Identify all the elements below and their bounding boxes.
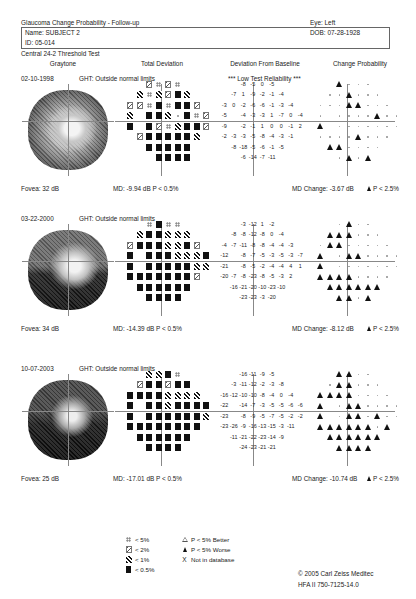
db-cell [286, 380, 296, 391]
db-cell [229, 219, 239, 230]
filled-triangle-icon [365, 445, 371, 451]
baseline-deviation-grid: -3-121-2-8-8-12-80-4-4-7-11-8-8-4-4-3-12… [210, 219, 305, 303]
dot-icon [377, 255, 379, 257]
td-cell [135, 272, 145, 283]
db-cell: -10 [277, 282, 287, 293]
solid-square-icon [184, 242, 190, 249]
cp-cell [354, 79, 364, 90]
td-cell [183, 401, 193, 412]
td-cell [126, 240, 136, 251]
td-cell [192, 380, 202, 391]
cp-cell [373, 111, 383, 122]
db-cell: -3 [229, 380, 239, 391]
cp-cell [344, 293, 354, 304]
cp-cell [344, 422, 354, 433]
hatch-dark-icon [194, 252, 200, 259]
solid-square-icon [165, 133, 171, 140]
solid-square-icon [146, 392, 152, 399]
dot-icon [339, 126, 341, 128]
db-cell: -9 [248, 411, 258, 422]
filled-triangle-icon [317, 424, 323, 430]
db-cell [296, 432, 306, 443]
db-cell [210, 121, 220, 132]
db-cell [210, 142, 220, 153]
cp-cell [316, 422, 326, 433]
td-cell [116, 369, 126, 380]
db-cell: -3 [267, 380, 277, 391]
cp-cell [316, 411, 326, 422]
td-cell [164, 293, 174, 304]
db-cell [210, 251, 220, 262]
db-cell: 4 [286, 261, 296, 272]
td-cell [173, 380, 183, 391]
hatch-light-icon [203, 112, 209, 119]
db-cell: -14 [248, 153, 258, 164]
db-cell: -5 [267, 79, 277, 90]
solid-square-icon [146, 252, 152, 259]
filled-triangle-icon [355, 284, 361, 290]
filled-triangle-icon [327, 434, 333, 440]
td-cell [145, 401, 155, 412]
dot-icon [177, 115, 179, 117]
solid-square-icon [156, 144, 162, 151]
cp-cell [392, 293, 402, 304]
db-cell [210, 219, 220, 230]
db-cell [296, 272, 306, 283]
solid-square-icon [156, 273, 162, 280]
td-cell [183, 369, 193, 380]
solid-square-icon [156, 413, 162, 420]
td-cell [154, 282, 164, 293]
db-cell: -5 [248, 142, 258, 153]
td-cell [116, 390, 126, 401]
db-cell [229, 261, 239, 272]
md-change-value: MD Change: -3.67 dB [292, 185, 354, 192]
td-cell [164, 90, 174, 101]
dot-icon [320, 115, 322, 117]
hatch-dark-icon [184, 252, 190, 259]
td-cell [164, 100, 174, 111]
cp-cell [363, 390, 373, 401]
filled-triangle-icon [367, 326, 371, 331]
cp-cell [335, 251, 345, 262]
td-cell [116, 272, 126, 283]
filled-triangle-icon [327, 242, 333, 248]
total-deviation-grid [116, 219, 211, 303]
td-cell [183, 380, 193, 391]
cp-cell [373, 100, 383, 111]
solid-square-icon [146, 413, 152, 420]
filled-triangle-icon [346, 274, 352, 280]
test-date: 10-07-2003 [21, 365, 54, 372]
td-cell [154, 390, 164, 401]
cp-cell [306, 272, 316, 283]
hatch-dark-icon [194, 133, 200, 140]
td-cell [135, 240, 145, 251]
filled-triangle-icon [336, 232, 342, 238]
cp-cell [392, 142, 402, 153]
solid-square-icon [165, 273, 171, 280]
td-cell [135, 153, 145, 164]
cp-cell [363, 121, 373, 132]
cp-cell [382, 230, 392, 241]
dot-icon [329, 136, 331, 138]
db-cell: -14 [267, 432, 277, 443]
td-cell [145, 79, 155, 90]
td-cell [135, 90, 145, 101]
db-cell: -8 [239, 261, 249, 272]
td-cell [183, 219, 193, 230]
td-cell [183, 142, 193, 153]
dot-icon [377, 384, 379, 386]
td-cell [116, 79, 126, 90]
dot-icon [367, 234, 369, 236]
cp-cell [335, 390, 345, 401]
solid-square-icon [184, 273, 190, 280]
td-cell [164, 240, 174, 251]
dot-icon [358, 245, 360, 247]
db-cell [220, 230, 230, 241]
dot-icon [377, 245, 379, 247]
cp-cell [373, 90, 383, 101]
cp-cell [354, 219, 364, 230]
cp-cell [344, 153, 354, 164]
solid-square-icon [137, 434, 143, 441]
filled-triangle-icon [365, 284, 371, 290]
cp-cell [354, 390, 364, 401]
